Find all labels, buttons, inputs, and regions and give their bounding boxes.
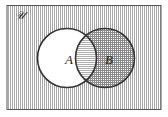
set-a-label: A	[64, 52, 73, 67]
set-b-label: B	[105, 52, 113, 67]
venn-diagram: 𝒰 A B	[0, 0, 168, 117]
